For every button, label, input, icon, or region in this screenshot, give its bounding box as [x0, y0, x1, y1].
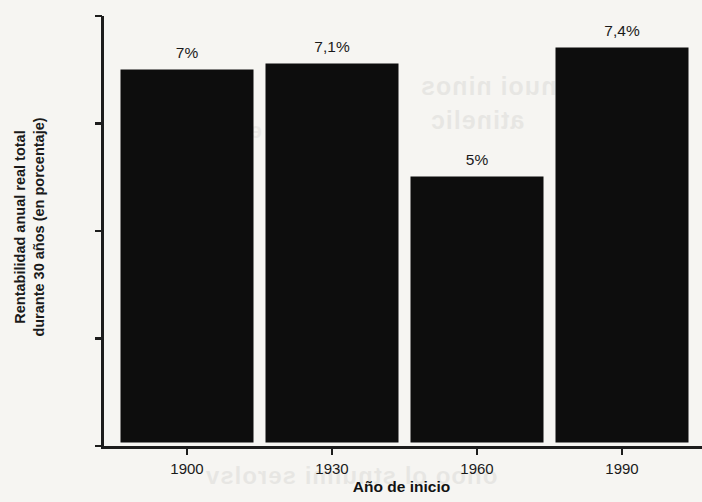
y-tick-mark: [95, 15, 102, 17]
x-tick-label: 1990: [562, 460, 682, 477]
bar-value-label: 7%: [117, 44, 257, 62]
x-axis-line: [101, 446, 702, 449]
x-tick-mark: [476, 448, 478, 455]
plot-area: 0%2%4%6%8% 1900193019601990 7%7,1%5%7,4%: [101, 10, 702, 448]
y-tick-mark: [95, 445, 102, 447]
x-tick-mark: [186, 448, 188, 455]
x-tick-label: 1900: [127, 460, 247, 477]
x-tick-label: 1930: [272, 460, 392, 477]
y-axis-title-line-2: durante 30 años (en porcentaje): [30, 117, 49, 336]
bar-value-label: 7,1%: [262, 38, 402, 56]
bar[interactable]: [556, 48, 688, 442]
chart-figure: sanuoi ninos atinelic onoo ol stnulmi se…: [0, 0, 702, 502]
y-tick-mark: [95, 122, 102, 124]
y-axis-title: Rentabilidad anual real total durante 30…: [2, 4, 58, 450]
bar-value-label: 5%: [407, 151, 547, 169]
y-tick-mark: [95, 337, 102, 339]
bar-value-label: 7,4%: [552, 22, 692, 40]
x-tick-label: 1960: [417, 460, 537, 477]
x-axis-title: Año de inicio: [101, 478, 702, 496]
x-tick-mark: [331, 448, 333, 455]
bar[interactable]: [266, 64, 398, 442]
bar[interactable]: [411, 177, 543, 442]
bar[interactable]: [121, 70, 253, 442]
x-tick-mark: [621, 448, 623, 455]
y-tick-mark: [95, 230, 102, 232]
y-axis-title-line-1: Rentabilidad anual real total: [11, 130, 30, 323]
